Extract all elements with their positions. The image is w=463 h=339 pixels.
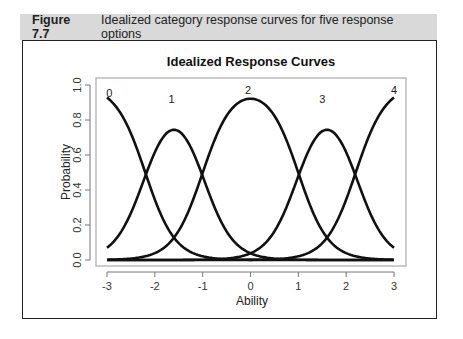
plot-area-box <box>96 78 406 266</box>
curve-labels: 01234 <box>106 84 397 105</box>
curve-label-4: 4 <box>391 84 397 96</box>
curve-label-0: 0 <box>106 87 112 99</box>
x-axis-label: Ability <box>236 294 268 308</box>
response-curve-2 <box>107 99 394 260</box>
y-tick-label: 0.2 <box>71 217 83 232</box>
x-tick-label: -2 <box>150 280 160 292</box>
x-axis: -3-2-10123 <box>102 272 397 292</box>
y-axis-label: Probability <box>59 144 73 200</box>
x-tick-label: 0 <box>247 280 253 292</box>
curve-label-2: 2 <box>245 84 251 96</box>
x-tick-label: 2 <box>343 280 349 292</box>
x-tick-label: -1 <box>198 280 208 292</box>
x-tick-label: 3 <box>391 280 397 292</box>
y-tick-label: 1.0 <box>71 77 83 92</box>
response-curve-0 <box>107 98 394 260</box>
response-curve-3 <box>107 130 394 260</box>
curves-group <box>107 98 394 260</box>
response-curve-4 <box>107 98 394 260</box>
y-tick-label: 0.0 <box>71 252 83 267</box>
y-axis: 0.00.20.40.60.81.0 <box>71 77 90 267</box>
chart-title: Idealized Response Curves <box>167 54 335 69</box>
x-tick-label: -3 <box>102 280 112 292</box>
response-curve-1 <box>107 130 394 260</box>
x-tick-label: 1 <box>295 280 301 292</box>
curve-label-1: 1 <box>169 93 175 105</box>
y-tick-label: 0.8 <box>71 112 83 127</box>
response-curves-chart: Idealized Response Curves 0.00.20.40.60.… <box>0 0 463 339</box>
curve-label-3: 3 <box>319 93 325 105</box>
